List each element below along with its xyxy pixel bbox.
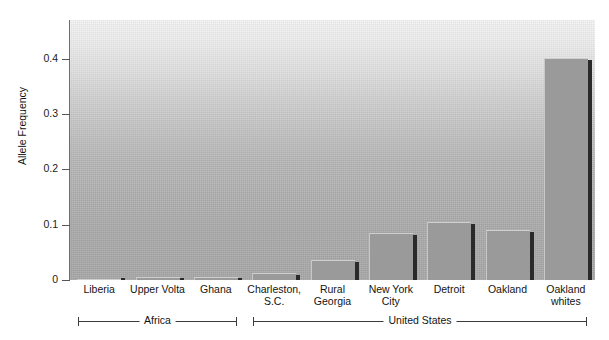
bar xyxy=(136,277,180,280)
y-axis-tick xyxy=(62,59,70,60)
group-label-united-states: United States xyxy=(383,314,456,326)
y-axis-tick-label: 0.1 xyxy=(0,218,58,230)
x-axis-category-label: Oakland whites xyxy=(537,283,595,307)
bracket-cap-right xyxy=(236,317,237,326)
bar xyxy=(369,233,413,280)
x-axis-category-label: Upper Volta xyxy=(128,283,186,295)
y-axis-tick-label: 0.4 xyxy=(0,52,58,64)
bar-edge-shadow xyxy=(530,232,534,280)
bar-edge-shadow xyxy=(238,278,242,280)
y-axis-tick-label: 0.2 xyxy=(0,162,58,174)
bracket-cap-right xyxy=(586,317,587,326)
y-axis-tick xyxy=(62,169,70,170)
x-axis-category-label: Detroit xyxy=(420,283,478,295)
bar xyxy=(77,279,121,281)
x-axis-category-label: Charleston, S.C. xyxy=(245,283,303,307)
group-bracket-africa: Africa xyxy=(78,316,237,328)
group-label-africa: Africa xyxy=(139,314,176,326)
x-axis-category-label: Liberia xyxy=(70,283,128,295)
y-axis-title: Allele Frequency xyxy=(16,66,28,186)
bar-edge-shadow xyxy=(180,278,184,280)
bar-edge-shadow xyxy=(296,275,300,280)
plot-area xyxy=(70,20,595,280)
bar-edge-shadow xyxy=(588,60,592,280)
y-axis-tick xyxy=(62,225,70,226)
bar xyxy=(194,277,238,280)
x-axis-category-label: Ghana xyxy=(187,283,245,295)
bar-edge-shadow xyxy=(471,224,475,280)
bar xyxy=(486,230,530,280)
bar xyxy=(544,58,588,280)
y-axis-tick xyxy=(62,114,70,115)
bar-edge-shadow xyxy=(121,278,125,280)
allele-frequency-bar-chart: 0.40.30.20.10 Allele Frequency LiberiaUp… xyxy=(0,0,609,340)
bar-edge-shadow xyxy=(413,235,417,280)
x-axis-category-label: Rural Georgia xyxy=(303,283,361,307)
y-axis-tick-label: 0 xyxy=(0,273,58,285)
bar-edge-shadow xyxy=(355,262,359,280)
bar xyxy=(311,260,355,280)
group-bracket-united-states: United States xyxy=(253,316,587,328)
bar xyxy=(252,273,296,280)
bar xyxy=(427,222,471,280)
x-axis-category-label: Oakland xyxy=(478,283,536,295)
bracket-cap-left xyxy=(253,317,254,326)
x-axis-category-label: New York City xyxy=(362,283,420,307)
bracket-cap-left xyxy=(78,317,79,326)
y-axis-tick-label: 0.3 xyxy=(0,107,58,119)
y-axis-tick xyxy=(62,280,70,281)
